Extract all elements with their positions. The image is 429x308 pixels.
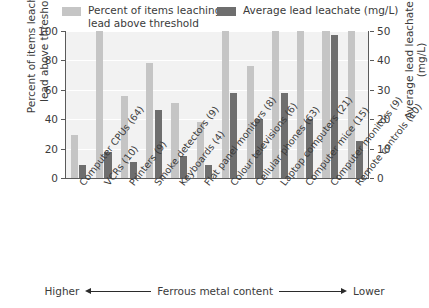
- y-tick-label-right: 50: [377, 25, 390, 37]
- y-tick-left: [61, 149, 65, 150]
- y-tick-label-right: 40: [377, 54, 390, 66]
- y-tick-right: [370, 60, 374, 61]
- chart-root: Percent of items leaching lead above thr…: [0, 0, 429, 308]
- y-tick-left: [61, 60, 65, 61]
- y-tick-label-right: 30: [377, 84, 390, 96]
- footer-label-higher: Higher: [44, 285, 79, 297]
- legend-label-avg-leachate: Average lead leachate (mg/L): [243, 4, 398, 17]
- legend-label-percent-leaching: Percent of items leaching lead above thr…: [88, 4, 221, 29]
- y-axis-left-title: Percent of items leaching lead above thr…: [25, 0, 50, 122]
- y-tick-right: [370, 119, 374, 120]
- legend-swatch-avg-leachate: [217, 7, 236, 16]
- chart-legend: Percent of items leaching lead above thr…: [62, 2, 422, 32]
- arrow-right-icon: [279, 286, 347, 297]
- y-tick-left: [61, 31, 65, 32]
- ferrous-content-annotation: Higher Ferrous metal content Lower: [0, 281, 429, 301]
- legend-item-percent-leaching: Percent of items leaching lead above thr…: [62, 4, 222, 29]
- y-tick-right: [370, 149, 374, 150]
- legend-item-avg-leachate: Average lead leachate (mg/L): [217, 4, 422, 17]
- legend-swatch-percent-leaching: [62, 7, 81, 16]
- y-tick-left: [61, 90, 65, 91]
- bar-group: [66, 31, 91, 178]
- footer-label-lower: Lower: [353, 285, 384, 297]
- bar-percent-leaching: [71, 135, 78, 178]
- footer-label-center: Ferrous metal content: [157, 285, 273, 297]
- y-tick-label-left: 20: [28, 143, 58, 155]
- y-tick-right: [370, 31, 374, 32]
- y-tick-right: [370, 90, 374, 91]
- axis-spine-left: [65, 31, 66, 179]
- y-tick-left: [61, 119, 65, 120]
- x-axis-category-labels: Computer CPUs (64)VCRs (10)Printers (9)S…: [0, 178, 429, 270]
- arrow-left-icon: [85, 286, 151, 297]
- axis-spine-right: [368, 31, 369, 179]
